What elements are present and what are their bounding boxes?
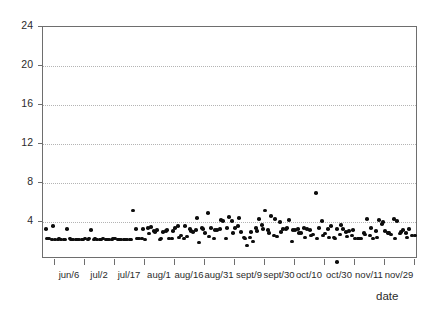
outlier-points-layer xyxy=(0,0,431,315)
x-axis-title: date xyxy=(376,290,398,302)
outlier-data-point xyxy=(335,260,339,264)
scatter-plot-figure: 2420161284 jun/6jul/2jul/17aug/1aug/16au… xyxy=(0,0,431,315)
